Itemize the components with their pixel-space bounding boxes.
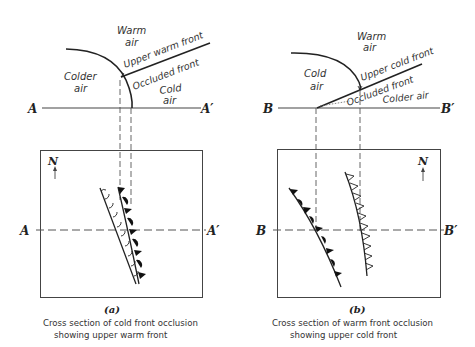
upper-cold-front-symbol-b	[345, 172, 373, 276]
panel-b-map: N B B′	[255, 150, 458, 298]
label-warm-air-a-2: air	[125, 37, 139, 48]
north-label-a: N	[47, 155, 59, 168]
map-section-label-b-start: B	[255, 224, 266, 238]
warm-front-symbol-a	[100, 188, 138, 284]
label-cold-air-b-1: Cold	[304, 68, 327, 79]
label-colder-air-a-2: air	[74, 83, 88, 94]
map-section-label-a-start: A	[19, 224, 29, 238]
section-label-b-end: B′	[440, 102, 455, 116]
panel-a: A A′ Warm air Colder air Cold air Upper …	[19, 25, 220, 340]
label-warm-air-b-1: Warm	[357, 31, 387, 42]
north-arrow-icon	[421, 167, 425, 181]
caption-a-line-1: Cross section of cold front occlusion	[43, 318, 198, 328]
map-section-label-b-end: B′	[443, 224, 458, 238]
north-label-b: N	[417, 155, 429, 168]
caption-b-line-1: Cross section of warm front occlusion	[272, 318, 433, 328]
panel-a-cross-section: A A′ Warm air Colder air Cold air Upper …	[27, 25, 214, 116]
panel-b: B B′ Warm air Cold air Upper cold front …	[255, 31, 458, 340]
section-label-a-start: A	[27, 102, 37, 116]
map-frame-b	[278, 150, 441, 298]
label-colder-air-a-1: Colder	[64, 71, 97, 82]
section-label-a-end: A′	[200, 102, 214, 116]
label-cold-air-b-2: air	[310, 81, 324, 92]
occluded-front-symbol-b	[289, 188, 342, 287]
panel-letter-b: (b)	[349, 304, 366, 315]
label-cold-air-a-1: Cold	[159, 82, 183, 96]
panel-b-cross-section: B B′ Warm air Cold air Upper cold front …	[262, 31, 455, 116]
caption-a-line-2: showing upper warm front	[54, 330, 168, 340]
map-frame-a	[41, 151, 203, 298]
label-warm-air-b-2: air	[363, 42, 377, 53]
caption-b-line-2: showing upper cold front	[290, 330, 398, 340]
section-label-b-start: B	[262, 102, 273, 116]
occlusion-diagram: A A′ Warm air Colder air Cold air Upper …	[0, 0, 475, 347]
panel-letter-a: (a)	[104, 304, 120, 315]
label-cold-air-a-2: air	[163, 95, 177, 106]
map-section-label-a-end: A′	[206, 224, 220, 238]
label-warm-air-a-1: Warm	[117, 25, 147, 36]
